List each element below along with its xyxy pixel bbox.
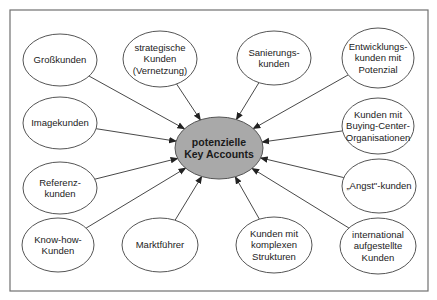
node-label-marktfuehrer: Marktführer [122,218,198,272]
node-label-line: Key Accounts [184,148,254,161]
node-label-line: Sanierungs- [248,47,299,59]
node-label-line: Kunden [144,53,177,65]
node-label-line: Marktführer [136,239,185,251]
node-label-angst-kunden: „Angst"-kunden [342,159,416,213]
arrow-referenzkunden [95,158,178,179]
node-label-line: aufgestellte [354,240,403,252]
arrow-imagekunden [96,129,176,142]
node-label-line: Buying-Center- [346,120,410,132]
node-label-line: Entwicklungs- [349,41,408,53]
node-label-line: Referenz- [39,177,81,189]
node-label-line: international [352,229,404,241]
node-label-imagekunden: Imagekunden [23,97,97,149]
node-label-line: Organisationen [346,132,410,144]
node-label-line: Kunden mit [354,109,402,121]
arrow-buying-center-kunden [262,131,342,142]
arrow-strategische-kunden [177,84,201,120]
node-label-line: (Vernetzung) [133,65,187,77]
node-label-line: Strukturen [252,251,296,263]
node-label-line: Großkunden [34,54,87,66]
node-label-grosskunden: Großkunden [23,34,97,86]
arrow-angst-kunden [261,158,344,178]
node-label-line: Kunden [362,252,395,264]
node-label-line: komplexen [251,239,297,251]
arrow-komplexe-strukturen [235,177,259,219]
node-label-line: „Angst"-kunden [346,180,411,192]
node-label-buying-center-kunden: Kunden mitBuying-Center-Organisationen [342,98,414,154]
node-label-line: Potenzial [358,64,397,76]
node-label-line: Kunden [42,245,75,257]
node-label-entwicklungskunden: Entwicklungs-kunden mitPotenzial [342,28,414,88]
node-label-referenzkunden: Referenz-kunden [23,162,97,214]
node-label-sanierungskunden: Sanierungs-kunden [237,31,311,85]
node-label-line: kunden [258,58,289,70]
node-label-line: kunden [44,188,75,200]
node-label-line: kunden mit [355,52,401,64]
node-label-line: Kunden mit [250,228,298,240]
node-label-line: Know-how- [34,234,82,246]
center-node-label: potenzielleKey Accounts [175,117,263,179]
node-label-strategische-kunden: strategischeKunden(Vernetzung) [123,31,197,87]
node-label-line: potenzielle [192,136,246,149]
node-label-know-how-kunden: Know-how-Kunden [22,218,94,272]
node-label-komplexe-strukturen: Kunden mitkomplexenStrukturen [236,217,312,273]
node-label-line: Imagekunden [31,117,89,129]
node-label-international-kunden: internationalaufgestellteKunden [340,218,416,274]
arrow-marktfuehrer [175,177,202,221]
arrow-sanierungskunden [236,83,259,120]
node-label-line: strategische [134,42,185,54]
